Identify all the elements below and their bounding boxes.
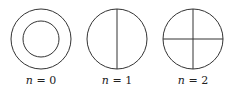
label-equals: =: [109, 74, 125, 87]
label-equals: =: [33, 74, 49, 87]
label-value: 2: [201, 74, 208, 87]
label-variable: n: [26, 74, 33, 87]
label-n1: n = 1: [87, 74, 147, 87]
outer-circle: [11, 9, 71, 69]
label-n0: n = 0: [11, 74, 71, 87]
label-variable: n: [178, 74, 185, 87]
label-value: 0: [49, 74, 56, 87]
panel-n2: [163, 9, 223, 69]
label-n2: n = 2: [163, 74, 223, 87]
label-variable: n: [102, 74, 109, 87]
label-equals: =: [185, 74, 201, 87]
inner-circle: [23, 21, 59, 57]
panel-n0: [11, 9, 71, 69]
panel-n1: [87, 9, 147, 69]
label-value: 1: [125, 74, 132, 87]
